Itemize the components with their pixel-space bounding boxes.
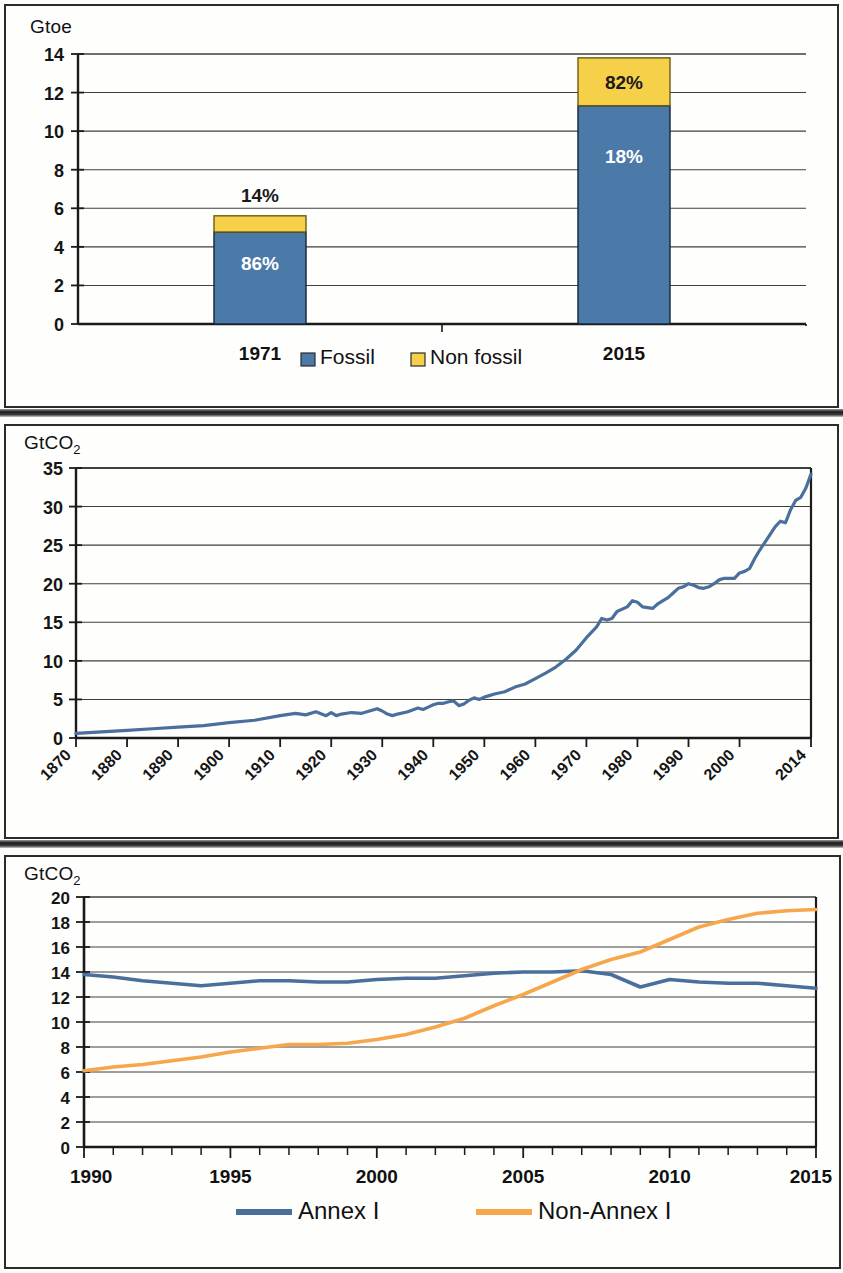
y-tick-label: 14 bbox=[44, 45, 64, 65]
chart3-plot: 0246810121416182019901995200020052010201… bbox=[51, 889, 832, 1187]
bar-data-label: 14% bbox=[241, 185, 279, 206]
figure-page: Gtoe 02468101214197186%14%201518%82%Foss… bbox=[0, 0, 843, 1273]
line-series-global-co2 bbox=[76, 474, 811, 733]
y-tick-label: 30 bbox=[43, 498, 63, 518]
y-tick-label: 2 bbox=[61, 1114, 70, 1133]
y-tick-label: 14 bbox=[51, 964, 70, 983]
y-tick-label: 15 bbox=[43, 613, 63, 633]
global-co2-line-chart: 0510152025303518701880189019001910192019… bbox=[6, 426, 837, 801]
x-tick-label: 1950 bbox=[445, 746, 482, 783]
panel2-unit-main: GtCO bbox=[24, 432, 73, 453]
panel2-unit-sub: 2 bbox=[73, 442, 80, 457]
y-tick-label: 10 bbox=[51, 1014, 70, 1033]
annex-co2-line-chart: 0246810121416182019901995200020052010201… bbox=[6, 857, 839, 1231]
line-series-annex-i bbox=[84, 971, 816, 989]
x-tick-label: 1870 bbox=[37, 746, 74, 783]
panel2-unit-label: GtCO2 bbox=[24, 432, 81, 457]
y-tick-label: 10 bbox=[43, 652, 63, 672]
x-tick-label: 1880 bbox=[88, 746, 125, 783]
bar-segment-non-fossil bbox=[214, 216, 306, 232]
y-tick-label: 20 bbox=[43, 575, 63, 595]
x-tick-label: 1970 bbox=[547, 746, 584, 783]
x-tick-label: 2014 bbox=[772, 746, 809, 783]
x-category-label: 2015 bbox=[603, 343, 646, 364]
x-tick-label: 1920 bbox=[292, 746, 329, 783]
y-tick-label: 20 bbox=[51, 889, 70, 908]
chart2-plot: 0510152025303518701880189019001910192019… bbox=[37, 459, 811, 783]
legend-label: Annex I bbox=[298, 1197, 379, 1224]
x-tick-label: 1910 bbox=[241, 746, 278, 783]
x-tick-label: 1960 bbox=[496, 746, 533, 783]
y-tick-label: 16 bbox=[51, 939, 70, 958]
x-tick-label: 2010 bbox=[648, 1166, 690, 1187]
y-tick-label: 8 bbox=[61, 1039, 70, 1058]
y-tick-label: 6 bbox=[61, 1064, 70, 1083]
panel3-unit-label: GtCO2 bbox=[24, 863, 81, 888]
x-tick-label: 2005 bbox=[502, 1166, 545, 1187]
y-tick-label: 10 bbox=[44, 122, 64, 142]
y-tick-label: 35 bbox=[43, 459, 63, 479]
y-tick-label: 4 bbox=[54, 238, 64, 258]
x-tick-label: 1980 bbox=[598, 746, 635, 783]
panel3-unit-main: GtCO bbox=[24, 863, 73, 884]
x-tick-label: 2000 bbox=[700, 746, 737, 783]
legend-label: Non fossil bbox=[430, 345, 522, 368]
y-tick-label: 25 bbox=[43, 536, 63, 556]
x-tick-label: 1940 bbox=[394, 746, 431, 783]
bar-segment-fossil bbox=[578, 106, 670, 324]
x-tick-label: 1990 bbox=[649, 746, 686, 783]
x-tick-label: 2015 bbox=[790, 1166, 833, 1187]
bar-segment-fossil bbox=[214, 232, 306, 324]
legend-swatch bbox=[411, 353, 425, 366]
legend-label: Fossil bbox=[320, 345, 375, 368]
chart1-legend: FossilNon fossil bbox=[301, 345, 522, 368]
x-tick-label: 1995 bbox=[209, 1166, 252, 1187]
panel-separator-1 bbox=[0, 409, 843, 417]
chart-panel-annex-co2: GtCO2 0246810121416182019901995200020052… bbox=[4, 855, 841, 1269]
legend-swatch bbox=[301, 353, 315, 366]
x-category-label: 1971 bbox=[239, 343, 282, 364]
y-tick-label: 12 bbox=[44, 84, 64, 104]
x-tick-label: 2000 bbox=[356, 1166, 398, 1187]
y-tick-label: 2 bbox=[54, 276, 64, 296]
stacked-bar-chart: 02468101214197186%14%201518%82%FossilNon… bbox=[6, 6, 837, 376]
x-tick-label: 1890 bbox=[139, 746, 176, 783]
y-tick-label: 12 bbox=[51, 989, 70, 1008]
chart-panel-energy-supply: Gtoe 02468101214197186%14%201518%82%Foss… bbox=[4, 4, 839, 408]
panel3-unit-sub: 2 bbox=[73, 873, 80, 888]
y-tick-label: 18 bbox=[51, 914, 70, 933]
panel-separator-2 bbox=[0, 840, 843, 848]
bar-data-label: 18% bbox=[605, 146, 643, 167]
bar-data-label: 86% bbox=[241, 253, 279, 274]
chart3-legend: Annex INon-Annex I bbox=[236, 1197, 671, 1224]
legend-label: Non-Annex I bbox=[538, 1197, 671, 1224]
panel1-unit-label: Gtoe bbox=[30, 16, 72, 38]
x-tick-label: 1930 bbox=[343, 746, 380, 783]
y-tick-label: 8 bbox=[54, 161, 64, 181]
y-tick-label: 4 bbox=[61, 1089, 71, 1108]
y-tick-label: 5 bbox=[53, 690, 63, 710]
chart-panel-global-co2: GtCO2 0510152025303518701880189019001910… bbox=[4, 424, 839, 839]
x-tick-label: 1990 bbox=[70, 1166, 112, 1187]
x-tick-label: 1900 bbox=[190, 746, 227, 783]
y-tick-label: 6 bbox=[54, 199, 64, 219]
bar-data-label: 82% bbox=[605, 72, 643, 93]
chart1-plot: 02468101214197186%14%201518%82% bbox=[44, 45, 806, 364]
y-tick-label: 0 bbox=[61, 1139, 70, 1158]
y-tick-label: 0 bbox=[54, 315, 64, 335]
